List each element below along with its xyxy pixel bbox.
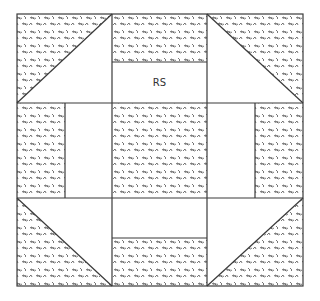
left-strip-print — [17, 103, 65, 198]
right-side-label: RS — [153, 77, 166, 88]
print-fabric-areas — [17, 14, 303, 286]
bottom-strip-print — [112, 238, 207, 286]
quilt-block-diagram: RS — [0, 0, 320, 301]
center-square-print — [112, 103, 207, 198]
top-strip-print — [112, 14, 207, 62]
right-strip-print — [255, 103, 303, 198]
